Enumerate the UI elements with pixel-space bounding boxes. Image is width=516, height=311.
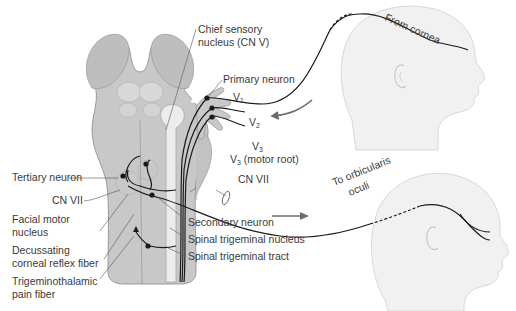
label-v3: V3 bbox=[252, 140, 263, 153]
label-spinal-trigeminal-nucleus: Spinal trigeminal nucleus bbox=[188, 233, 305, 245]
cn-vii-marker bbox=[221, 190, 231, 205]
label-decussating-line1: Decussating bbox=[12, 244, 70, 256]
label-tertiary-neuron: Tertiary neuron bbox=[12, 171, 82, 183]
lower-head-illustration bbox=[372, 173, 509, 311]
label-primary-neuron: Primary neuron bbox=[223, 73, 295, 85]
label-cn-vii-left: CN VII bbox=[52, 194, 83, 206]
label-trigeminothalamic-line1: Trigeminothalamic bbox=[12, 275, 97, 287]
label-decussating-line2: corneal reflex fiber bbox=[12, 257, 99, 269]
label-facial-motor-line1: Facial motor bbox=[12, 213, 70, 225]
label-cn-vii-right: CN VII bbox=[238, 173, 269, 185]
label-v3-motor-root: V3 (motor root) bbox=[230, 153, 299, 166]
label-spinal-trigeminal-tract: Spinal trigeminal tract bbox=[188, 250, 289, 262]
label-v1: V1 bbox=[233, 91, 244, 104]
afferent-arrow-icon bbox=[274, 100, 312, 116]
label-facial-motor-line2: nucleus bbox=[12, 226, 48, 238]
label-chief-sensory-line1: Chief sensory bbox=[198, 23, 263, 35]
label-chief-sensory-line2: nucleus (CN V) bbox=[198, 36, 269, 48]
label-secondary-neuron: Secondary neuron bbox=[188, 216, 274, 228]
corneal-reflex-diagram: Chief sensory nucleus (CN V) Primary neu… bbox=[0, 0, 516, 311]
label-v2: V2 bbox=[249, 116, 260, 129]
label-trigeminothalamic-line2: pain fiber bbox=[12, 288, 56, 300]
